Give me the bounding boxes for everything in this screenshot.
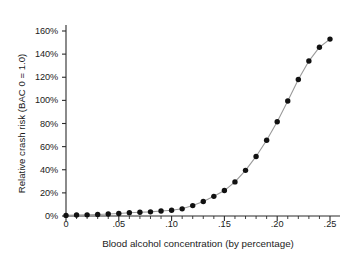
data-point [158,208,163,213]
y-tick-label: 140% [35,49,58,59]
data-point [327,36,332,41]
x-tick-label: 0 [63,219,68,229]
data-point [106,211,111,216]
data-point [179,206,184,211]
x-tick-label: .20 [271,219,284,229]
chart-figure: 0%20%40%60%80%100%120%140%160% 0.05.10.1… [0,0,353,263]
x-tick-label: .15 [218,219,231,229]
series-markers [63,36,332,218]
x-tick-label: .10 [165,219,178,229]
data-point [116,211,121,216]
data-point [275,119,280,124]
y-axis-ticks [62,31,66,216]
data-point [243,168,248,173]
data-point [137,210,142,215]
data-point [306,58,311,63]
data-point [148,209,153,214]
data-point [63,213,68,218]
data-point [84,212,89,217]
x-axis-title: Blood alcohol concentration (by percenta… [66,238,330,249]
y-tick-label: 20% [40,188,58,198]
data-point [190,203,195,208]
data-point [232,179,237,184]
y-axis-title: Relative crash risk (BAC 0 = 1.0) [16,24,27,224]
data-point [74,212,79,217]
data-point [222,188,227,193]
data-point [264,138,269,143]
data-point [317,44,322,49]
data-point [296,77,301,82]
x-axis-major-ticks [66,216,330,221]
data-point [211,194,216,199]
y-tick-label: 100% [35,95,58,105]
data-point [127,210,132,215]
y-tick-label: 80% [40,119,58,129]
data-point [95,212,100,217]
y-axis-tick-labels: 0%20%40%60%80%100%120%140%160% [0,0,58,263]
y-tick-label: 160% [35,26,58,36]
x-tick-label: .25 [324,219,337,229]
data-point [201,199,206,204]
data-point [169,208,174,213]
data-point [285,98,290,103]
y-tick-label: 40% [40,165,58,175]
y-tick-label: 120% [35,72,58,82]
x-tick-label: .05 [112,219,125,229]
series-line [66,39,330,215]
y-tick-label: 0% [45,211,58,221]
y-tick-label: 60% [40,142,58,152]
data-point [253,154,258,159]
